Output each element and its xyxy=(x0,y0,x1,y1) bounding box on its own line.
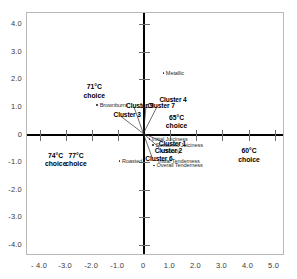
plot-area: MetallicBrownburntRoastedInitial Juicine… xyxy=(26,12,284,255)
x-tick xyxy=(118,130,119,141)
x-tick-label: 5.0 xyxy=(268,261,279,270)
x-tick xyxy=(92,130,93,141)
y-tick-label: -3.0 xyxy=(0,212,22,221)
x-tick xyxy=(275,130,276,141)
attribute-point: Metallic xyxy=(163,70,184,76)
x-tick-label: - 4.0 xyxy=(31,261,47,270)
y-tick xyxy=(139,217,150,218)
point-marker-icon xyxy=(119,160,121,162)
choice-word: choice xyxy=(83,92,105,101)
choice-group-label: 74°Cchoice xyxy=(45,152,67,169)
point-marker-icon xyxy=(96,104,98,106)
x-tick-label: 0 xyxy=(141,261,145,270)
x-tick-label: -1.0 xyxy=(110,261,124,270)
point-marker-icon xyxy=(153,165,155,167)
choice-temperature: 65°C xyxy=(166,114,188,123)
x-tick xyxy=(196,130,197,141)
attribute-point: Roasted xyxy=(119,158,142,164)
attribute-label: Metallic xyxy=(166,70,184,76)
choice-temperature: 77°C xyxy=(65,152,87,161)
x-tick xyxy=(222,130,223,141)
y-tick xyxy=(139,24,150,25)
y-tick xyxy=(139,52,150,53)
y-tick-label: 4.0 xyxy=(0,19,22,28)
x-tick-label: 3.0 xyxy=(216,261,227,270)
y-tick-label: -1.0 xyxy=(0,157,22,166)
cluster-vector xyxy=(121,117,143,134)
choice-group-label: 71°Cchoice xyxy=(83,83,105,100)
cluster-label: Cluster 6 xyxy=(145,155,172,162)
choice-group-label: 77°Cchoice xyxy=(65,152,87,169)
point-marker-icon xyxy=(149,138,151,140)
point-marker-icon xyxy=(152,144,154,146)
choice-group-label: 60°Cchoice xyxy=(238,147,260,164)
choice-word: choice xyxy=(45,160,67,169)
biplot-chart: MetallicBrownburntRoastedInitial Juicine… xyxy=(0,0,297,279)
y-tick xyxy=(139,245,150,246)
x-tick-label: 4.0 xyxy=(242,261,253,270)
x-tick-label: -3.0 xyxy=(58,261,72,270)
x-tick xyxy=(249,130,250,141)
attribute-point: Overall Tenderness xyxy=(153,162,202,168)
choice-temperature: 74°C xyxy=(45,152,67,161)
x-tick-label: 1.0 xyxy=(164,261,175,270)
y-tick-label: 3.0 xyxy=(0,46,22,55)
cluster-vector xyxy=(143,106,157,133)
point-marker-icon xyxy=(163,72,165,74)
y-tick xyxy=(139,190,150,191)
choice-word: choice xyxy=(238,156,260,165)
y-tick-label: 1.0 xyxy=(0,101,22,110)
attribute-point: Brownburnt xyxy=(96,102,127,108)
cluster-label: Cluster 4 xyxy=(159,96,186,103)
choice-word: choice xyxy=(166,122,188,131)
y-tick-label: -2.0 xyxy=(0,184,22,193)
cluster-label: Cluster 2 xyxy=(155,147,182,154)
y-tick-label: 0 xyxy=(0,129,22,138)
y-tick-label: 2.0 xyxy=(0,74,22,83)
y-tick-label: -4.0 xyxy=(0,239,22,248)
x-tick xyxy=(40,130,41,141)
attribute-label: Roasted xyxy=(122,158,142,164)
choice-temperature: 60°C xyxy=(238,147,260,156)
choice-word: choice xyxy=(65,160,87,169)
attribute-label: Overall Tenderness xyxy=(156,162,202,168)
x-tick xyxy=(66,130,67,141)
attribute-label: Brownburnt xyxy=(100,102,128,108)
x-tick-label: 2.0 xyxy=(190,261,201,270)
choice-group-label: 65°Cchoice xyxy=(166,114,188,131)
cluster-label: Cluster 3 xyxy=(114,111,141,118)
cluster-label: Cluster 7 xyxy=(147,102,174,109)
choice-temperature: 71°C xyxy=(83,83,105,92)
y-tick xyxy=(139,79,150,80)
x-tick-label: -2.0 xyxy=(84,261,98,270)
